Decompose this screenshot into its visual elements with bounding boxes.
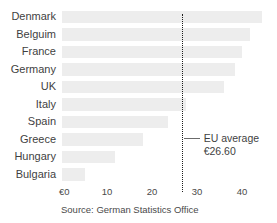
- eu-average-value: €26.60: [184, 145, 259, 158]
- bar-bulgaria: [62, 168, 85, 181]
- x-tick-label: 20: [147, 186, 158, 197]
- source-note: Source: German Statistics Office: [61, 204, 199, 215]
- category-label-greece: Greece: [20, 131, 62, 149]
- x-tick-label: 40: [237, 186, 248, 197]
- category-label-belguim: Belguim: [16, 26, 62, 44]
- bar-row: Denmark: [62, 8, 245, 26]
- bar-denmark: [62, 11, 262, 24]
- bar-greece: [62, 133, 143, 146]
- x-tick-label: €0: [59, 186, 70, 197]
- bar-belguim: [62, 28, 250, 41]
- bar-france: [62, 46, 242, 59]
- eu-average-label: EU average: [204, 132, 259, 144]
- eu-average-line: [182, 14, 183, 192]
- category-label-uk: UK: [41, 78, 62, 96]
- bar-row: Belguim: [62, 26, 245, 44]
- bar-row: Italy: [62, 96, 245, 114]
- category-label-germany: Germany: [11, 61, 62, 79]
- bar-hungary: [62, 151, 115, 164]
- bar-germany: [62, 63, 235, 76]
- category-label-spain: Spain: [28, 113, 62, 131]
- category-label-italy: Italy: [36, 96, 62, 114]
- plot-area: DenmarkBelguimFranceGermanyUKItalySpainG…: [62, 8, 245, 183]
- bar-row: UK: [62, 78, 245, 96]
- x-tick-label: 10: [102, 186, 113, 197]
- x-tick-label: 30: [192, 186, 203, 197]
- eu-average-callout: EU average€26.60: [184, 132, 259, 158]
- x-axis: €010203040: [62, 186, 245, 200]
- category-label-denmark: Denmark: [11, 8, 62, 26]
- bar-row: France: [62, 43, 245, 61]
- bar-row: Germany: [62, 61, 245, 79]
- bar-spain: [62, 116, 168, 129]
- category-label-bulgaria: Bulgaria: [16, 166, 62, 184]
- bar-row: Bulgaria: [62, 166, 245, 184]
- bar-uk: [62, 81, 224, 94]
- bar-row: Spain: [62, 113, 245, 131]
- bar-italy: [62, 98, 186, 111]
- horizontal-bar-chart: DenmarkBelguimFranceGermanyUKItalySpainG…: [0, 0, 277, 223]
- callout-leader-line: [184, 138, 200, 139]
- category-label-france: France: [22, 43, 62, 61]
- category-label-hungary: Hungary: [14, 148, 62, 166]
